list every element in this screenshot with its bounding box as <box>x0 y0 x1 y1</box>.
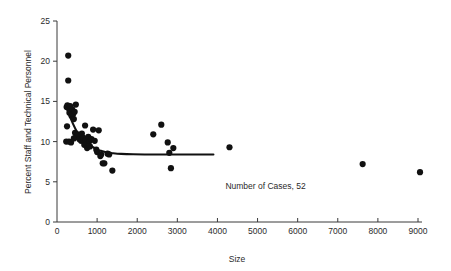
y-tick-label: 15 <box>41 96 51 106</box>
x-tick-label: 7000 <box>328 226 347 236</box>
x-axis-title: Size <box>229 254 246 264</box>
data-point <box>87 143 93 149</box>
data-point <box>65 52 71 58</box>
data-point <box>106 151 112 157</box>
data-point <box>92 138 98 144</box>
data-point <box>158 122 164 128</box>
data-point <box>150 131 156 137</box>
data-point <box>417 169 423 175</box>
data-point <box>64 123 70 129</box>
data-point <box>165 139 171 145</box>
chart-annotations: Number of Cases, 52 <box>225 181 306 191</box>
data-point <box>109 167 115 173</box>
data-point <box>65 77 71 83</box>
case-count-annotation: Number of Cases, 52 <box>225 181 306 191</box>
x-tick-label: 3000 <box>168 226 187 236</box>
data-point <box>73 102 79 108</box>
y-tick-label: 5 <box>45 177 50 187</box>
x-tick-label: 8000 <box>368 226 387 236</box>
data-point <box>90 126 96 132</box>
y-tick-label: 0 <box>45 217 50 227</box>
data-point <box>168 165 174 171</box>
chart-canvas: 0510152025 01000200030004000500060007000… <box>0 0 451 271</box>
x-tick-label: 6000 <box>288 226 307 236</box>
x-tick-label: 2000 <box>128 226 147 236</box>
data-point <box>96 127 102 133</box>
data-point <box>170 145 176 151</box>
x-tick-label: 9000 <box>409 226 428 236</box>
x-tick-label: 0 <box>55 226 60 236</box>
y-tick-label: 10 <box>41 137 51 147</box>
data-point <box>166 150 172 156</box>
y-axis-title: Percent Staff and Technical Personnel <box>23 50 33 194</box>
data-point <box>82 122 88 128</box>
x-tick-label: 4000 <box>208 226 227 236</box>
data-point <box>71 116 77 122</box>
x-tick-label: 5000 <box>248 226 267 236</box>
data-point <box>72 109 78 115</box>
y-tick-label: 25 <box>41 16 51 26</box>
x-tick-label: 1000 <box>88 226 107 236</box>
y-tick-label: 20 <box>41 56 51 66</box>
data-point <box>98 151 104 157</box>
data-point <box>226 144 232 150</box>
data-point <box>101 160 107 166</box>
scatter-plot-figure: 0510152025 01000200030004000500060007000… <box>0 0 451 271</box>
data-point <box>360 161 366 167</box>
